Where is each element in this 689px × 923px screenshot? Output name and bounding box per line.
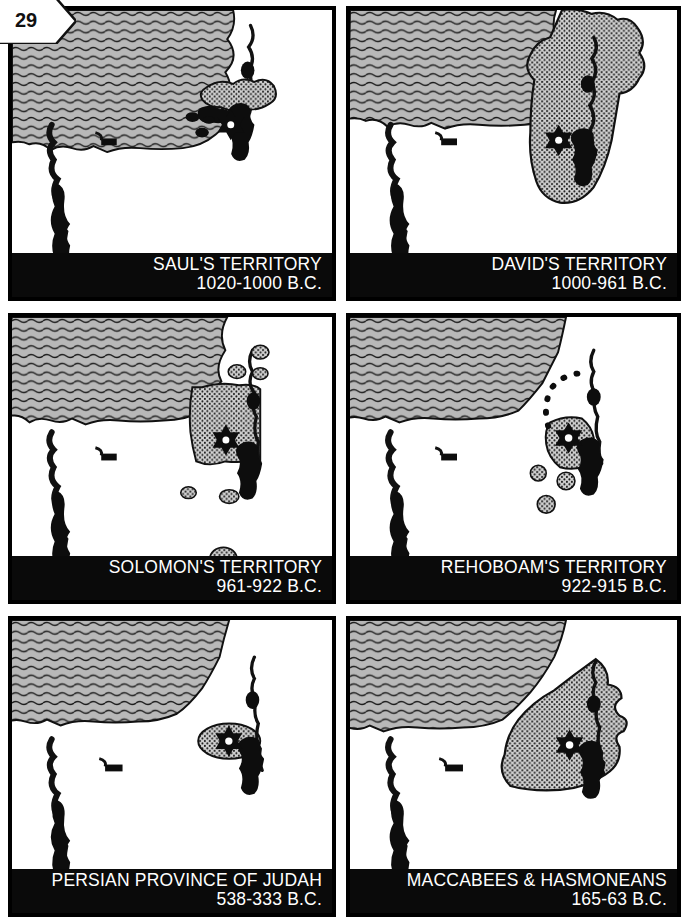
vassal-blob-5 (220, 490, 239, 504)
caption-title: REHOBOAM'S TERRITORY (360, 559, 667, 577)
capital-dot (227, 121, 234, 128)
map-frame: REHOBOAM'S TERRITORY 922-915 B.C. (346, 313, 681, 604)
caption-dates: 961-922 B.C. (22, 577, 322, 595)
page-number: 29 (6, 9, 46, 32)
caption-dates: 538-333 B.C. (22, 890, 322, 908)
sea-of-galilee (241, 62, 255, 80)
harbor-mark (445, 765, 463, 772)
caption-title: MACCABEES & HASMONEANS (360, 872, 667, 890)
map-frame: SAUL'S TERRITORY 1020-1000 B.C. (8, 6, 336, 301)
city-blob-2 (203, 116, 215, 124)
panel-sauls-territory: SAUL'S TERRITORY 1020-1000 B.C. (0, 0, 342, 307)
neighbor-blob-1 (530, 465, 546, 481)
caption-title: PERSIAN PROVINCE OF JUDAH (22, 872, 322, 890)
harbor-mark (441, 454, 457, 461)
panel-caption: SAUL'S TERRITORY 1020-1000 B.C. (12, 253, 332, 297)
vassal-blob-2 (228, 365, 245, 379)
map-page: SAUL'S TERRITORY 1020-1000 B.C. (0, 0, 689, 923)
caption-dates: 1020-1000 B.C. (22, 274, 322, 292)
map-frame: PERSIAN PROVINCE OF JUDAH 538-333 B.C. (8, 616, 336, 917)
caption-dates: 1000-961 B.C. (360, 274, 667, 292)
vassal-blob-1 (252, 345, 269, 359)
harbor-mark (105, 765, 122, 772)
sea-of-galilee (247, 392, 261, 410)
caption-title: SAUL'S TERRITORY (22, 256, 322, 274)
city-blob-1 (186, 112, 200, 122)
harbor-mark (441, 138, 457, 145)
harbor-mark (101, 454, 117, 461)
neighbor-blob-2 (557, 472, 575, 490)
map-frame: DAVID'S TERRITORY 1000-961 B.C. (346, 6, 681, 301)
panel-caption: DAVID'S TERRITORY 1000-961 B.C. (350, 253, 677, 297)
vassal-blob-4 (181, 487, 197, 499)
panel-maccabees: MACCABEES & HASMONEANS 165-63 B.C. (342, 610, 689, 923)
panel-caption: MACCABEES & HASMONEANS 165-63 B.C. (350, 869, 677, 913)
panel-grid: SAUL'S TERRITORY 1020-1000 B.C. (0, 0, 689, 923)
caption-dates: 165-63 B.C. (360, 890, 667, 908)
capital-dot (555, 137, 562, 144)
capital-dot (566, 741, 574, 748)
city-blob-3 (195, 128, 209, 138)
page-number-tab: 29 (0, 0, 76, 44)
sea-of-galilee (587, 695, 601, 713)
neighbor-blob-3 (537, 496, 555, 514)
panel-caption: REHOBOAM'S TERRITORY 922-915 B.C. (350, 556, 677, 600)
harbor-mark (101, 138, 117, 145)
sea-of-galilee (581, 75, 595, 93)
panel-rehoboams-territory: REHOBOAM'S TERRITORY 922-915 B.C. (342, 307, 689, 610)
panel-caption: PERSIAN PROVINCE OF JUDAH 538-333 B.C. (12, 869, 332, 913)
map-frame: SOLOMON'S TERRITORY 961-922 B.C. (8, 313, 336, 604)
caption-title: DAVID'S TERRITORY (360, 256, 667, 274)
caption-dates: 922-915 B.C. (360, 577, 667, 595)
capital-dot (222, 436, 229, 443)
map-frame: MACCABEES & HASMONEANS 165-63 B.C. (346, 616, 681, 917)
panel-persian-province: PERSIAN PROVINCE OF JUDAH 538-333 B.C. (0, 610, 342, 923)
panel-davids-territory: DAVID'S TERRITORY 1000-961 B.C. (342, 0, 689, 307)
panel-solomons-territory: SOLOMON'S TERRITORY 961-922 B.C. (0, 307, 342, 610)
sea-of-galilee (587, 388, 601, 406)
capital-dot (225, 737, 232, 744)
capital-dot (565, 434, 573, 441)
caption-title: SOLOMON'S TERRITORY (22, 559, 322, 577)
sea-of-galilee (246, 691, 260, 709)
vassal-blob-3 (252, 368, 268, 380)
panel-caption: SOLOMON'S TERRITORY 961-922 B.C. (12, 556, 332, 600)
